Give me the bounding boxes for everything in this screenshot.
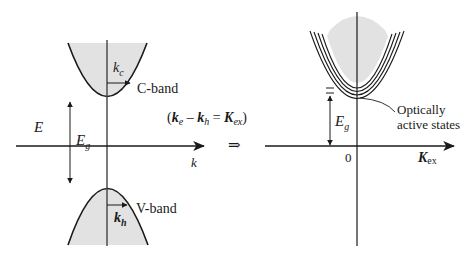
right-exciton-diagram: Eg 0 Kex Optically active states — [265, 12, 460, 246]
implies-arrow: ⇒ — [228, 137, 241, 153]
annotation-line2: active states — [397, 117, 460, 132]
k-axis-label: k — [191, 155, 197, 170]
energy-axis-label: E — [33, 119, 43, 135]
left-band-diagram: E Eg k kc C-band kh V-band — [16, 40, 204, 246]
valence-band-label: V-band — [136, 201, 177, 216]
annotation-line1: Optically — [397, 102, 446, 117]
left-gap-label: Eg — [75, 132, 90, 151]
exciton-dispersion-diagram: E Eg k kc C-band kh V-band (ke – kh = Ke… — [0, 0, 468, 261]
right-gap-label: Eg — [334, 113, 349, 132]
origin-label: 0 — [345, 150, 352, 165]
conduction-band-label: C-band — [137, 81, 178, 96]
kex-axis-label: Kex — [417, 150, 437, 166]
annotation-leader — [360, 98, 395, 112]
momentum-equation: (ke – kh = Kex) — [167, 110, 247, 127]
